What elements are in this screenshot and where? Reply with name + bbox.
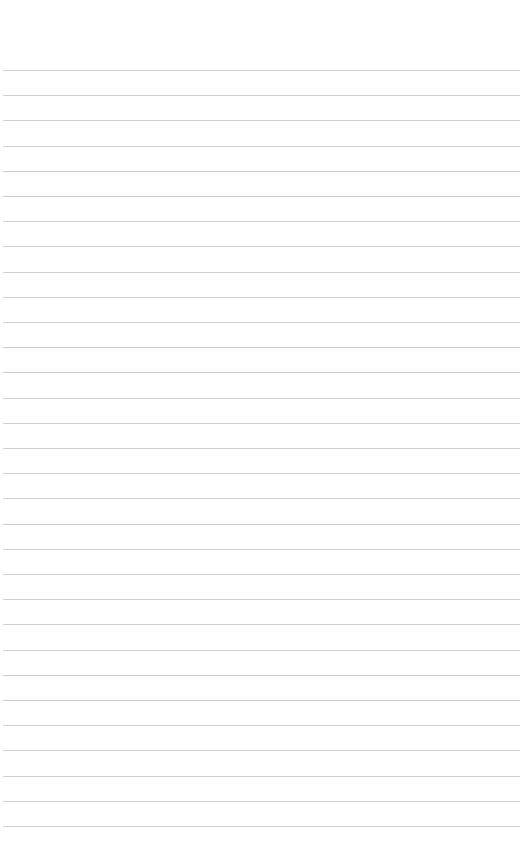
ruled-line (3, 624, 520, 625)
ruled-line (3, 448, 520, 449)
ruled-line (3, 574, 520, 575)
ruled-line (3, 498, 520, 499)
lined-page (0, 0, 523, 864)
ruled-line (3, 473, 520, 474)
ruled-line (3, 750, 520, 751)
ruled-line (3, 675, 520, 676)
ruled-line (3, 322, 520, 323)
ruled-line (3, 423, 520, 424)
ruled-line (3, 801, 520, 802)
ruled-line (3, 599, 520, 600)
ruled-line (3, 95, 520, 96)
ruled-line (3, 650, 520, 651)
ruled-line (3, 398, 520, 399)
ruled-line (3, 776, 520, 777)
ruled-line (3, 196, 520, 197)
ruled-line (3, 372, 520, 373)
ruled-line (3, 221, 520, 222)
ruled-line (3, 347, 520, 348)
ruled-line (3, 171, 520, 172)
ruled-line (3, 146, 520, 147)
ruled-line (3, 246, 520, 247)
ruled-line (3, 826, 520, 827)
ruled-line (3, 725, 520, 726)
ruled-line (3, 70, 520, 71)
ruled-line (3, 549, 520, 550)
ruled-line (3, 272, 520, 273)
ruled-line (3, 297, 520, 298)
ruled-line (3, 120, 520, 121)
ruled-line (3, 700, 520, 701)
ruled-line (3, 524, 520, 525)
